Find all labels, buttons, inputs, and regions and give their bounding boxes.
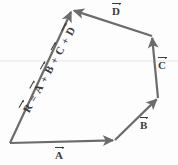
vector-diagram: D C B A R = A + B + C + D bbox=[0, 0, 178, 165]
vector-c-label-text: C bbox=[158, 57, 166, 71]
vector-b-arrow bbox=[115, 99, 157, 140]
vector-d-label: D bbox=[112, 3, 120, 17]
vector-b-label: B bbox=[140, 117, 147, 131]
vector-canvas bbox=[0, 0, 178, 165]
vector-a-label: A bbox=[55, 147, 63, 161]
vector-a-arrow bbox=[10, 140, 113, 143]
vector-d-label-text: D bbox=[112, 3, 120, 17]
vector-b-label-text: B bbox=[140, 117, 147, 131]
vector-a-label-text: A bbox=[55, 147, 63, 161]
vector-c-label: C bbox=[158, 57, 166, 71]
